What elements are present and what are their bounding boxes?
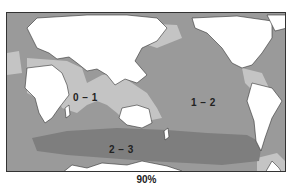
map-caption: 90% bbox=[0, 174, 293, 185]
zone-label-1-2: 1 – 2 bbox=[191, 97, 216, 108]
world-map: 0 – 1 1 – 2 2 – 3 bbox=[6, 12, 286, 172]
map-graphic bbox=[7, 13, 286, 172]
zone-label-2-3: 2 – 3 bbox=[109, 144, 134, 155]
zone-label-0-1: 0 – 1 bbox=[73, 92, 98, 103]
